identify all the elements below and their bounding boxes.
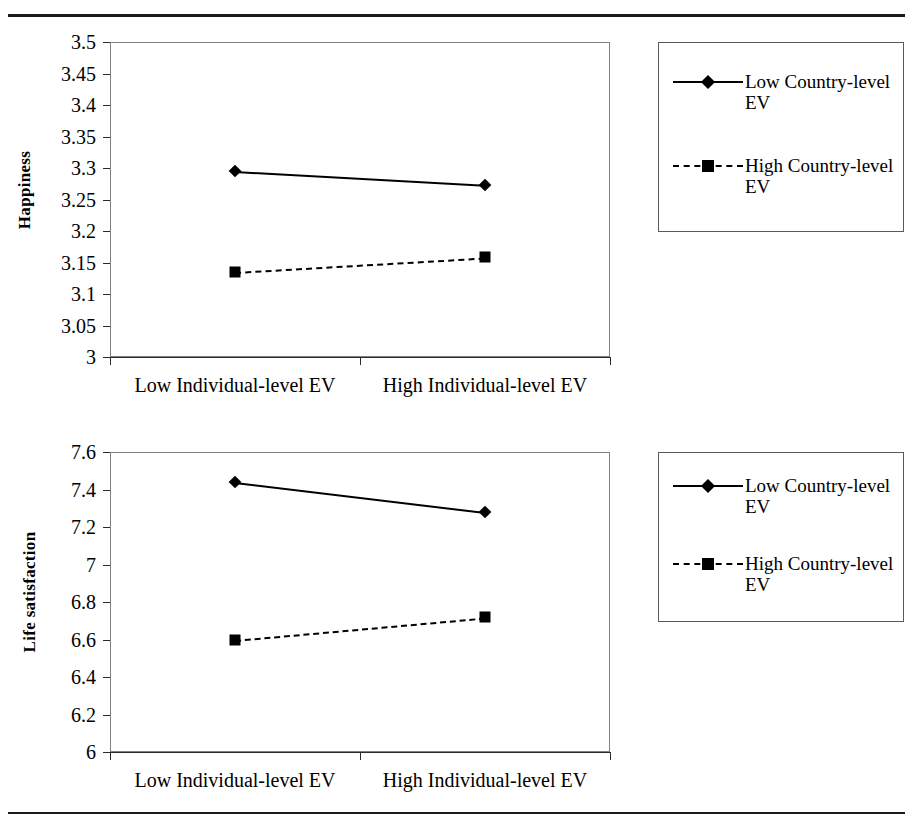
x-tick-label: High Individual-level EV (325, 375, 645, 395)
chart-life-satisfaction: Life satisfaction 7.67.47.276.86.66.46.2… (0, 432, 909, 804)
y-tick-label: 7.6 (0, 442, 96, 462)
y-tick-mark (103, 357, 110, 358)
y-tick-mark (103, 231, 110, 232)
y-tick-mark (103, 640, 110, 641)
y-tick-label: 7.4 (0, 480, 96, 500)
y-tick-mark (103, 168, 110, 169)
x-tick-mark (360, 357, 361, 365)
data-point-square (480, 252, 491, 263)
legend-life-satisfaction: Low Country-level EV High Country-level … (658, 452, 904, 622)
legend-label-low-country: Low Country-level EV (745, 475, 895, 517)
y-tick-mark (103, 137, 110, 138)
y-tick-mark (103, 602, 110, 603)
legend-item-low-country[interactable]: Low Country-level EV (671, 475, 895, 517)
y-tick-label: 3.15 (0, 253, 96, 273)
y-tick-label: 3 (0, 347, 96, 367)
figure-page: Happiness 3.53.453.43.353.33.253.23.153.… (0, 0, 909, 824)
legend-key-dashed-square-icon (671, 555, 745, 573)
y-tick-label: 6.4 (0, 667, 96, 687)
legend-label-high-country: High Country-level EV (745, 155, 895, 197)
y-tick-label: 3.25 (0, 190, 96, 210)
legend-happiness: Low Country-level EV High Country-level … (658, 42, 904, 232)
x-tick-label: High Individual-level EV (325, 770, 645, 790)
legend-key-solid-diamond-icon (671, 73, 745, 91)
x-tick-mark (360, 752, 361, 760)
legend-item-high-country[interactable]: High Country-level EV (671, 155, 895, 197)
legend-label-low-country: Low Country-level EV (745, 71, 895, 113)
legend-key-dashed-square-icon (671, 157, 745, 175)
y-tick-label: 3.4 (0, 95, 96, 115)
y-tick-mark (103, 263, 110, 264)
top-divider-rule (8, 14, 905, 17)
chart-happiness: Happiness 3.53.453.43.353.33.253.23.153.… (0, 20, 909, 410)
y-tick-mark (103, 42, 110, 43)
y-tick-label: 3.5 (0, 32, 96, 52)
y-tick-mark (103, 527, 110, 528)
y-tick-mark (103, 452, 110, 453)
plot-area-happiness (110, 42, 610, 357)
y-tick-mark (103, 200, 110, 201)
data-point-square (230, 266, 241, 277)
y-tick-mark (103, 752, 110, 753)
y-tick-label: 3.05 (0, 316, 96, 336)
y-tick-label: 6.8 (0, 592, 96, 612)
legend-key-solid-diamond-icon (671, 477, 745, 495)
legend-item-low-country[interactable]: Low Country-level EV (671, 71, 895, 113)
y-tick-label: 3.35 (0, 127, 96, 147)
legend-item-high-country[interactable]: High Country-level EV (671, 553, 895, 595)
y-tick-mark (103, 565, 110, 566)
y-tick-mark (103, 74, 110, 75)
y-tick-label: 6.2 (0, 705, 96, 725)
x-tick-mark (110, 357, 111, 365)
x-tick-mark (610, 752, 611, 760)
y-tick-label: 6.6 (0, 630, 96, 650)
legend-label-high-country: High Country-level EV (745, 553, 895, 595)
y-tick-label: 7.2 (0, 517, 96, 537)
y-tick-label: 3.2 (0, 221, 96, 241)
x-tick-mark (110, 752, 111, 760)
y-tick-label: 3.3 (0, 158, 96, 178)
y-tick-label: 3.45 (0, 64, 96, 84)
y-tick-mark (103, 294, 110, 295)
data-point-square (480, 612, 491, 623)
data-point-square (230, 634, 241, 645)
y-tick-label: 3.1 (0, 284, 96, 304)
y-tick-label: 6 (0, 742, 96, 762)
y-tick-label: 7 (0, 555, 96, 575)
y-tick-mark (103, 715, 110, 716)
bottom-divider-rule (8, 812, 905, 814)
y-tick-mark (103, 677, 110, 678)
y-tick-mark (103, 326, 110, 327)
x-tick-mark (610, 357, 611, 365)
y-tick-mark (103, 105, 110, 106)
y-tick-mark (103, 490, 110, 491)
